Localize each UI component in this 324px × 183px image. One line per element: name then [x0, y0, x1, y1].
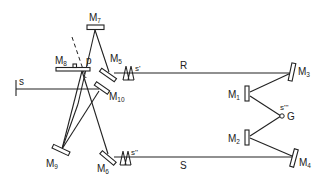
mirror-m10 — [94, 82, 109, 94]
grating-g — [280, 114, 284, 118]
beam-m7-m5 — [95, 30, 109, 72]
label-m2: M2 — [228, 133, 240, 145]
slit-s-double-prime — [120, 151, 131, 165]
mirror-m3 — [288, 63, 296, 81]
label-m5: M5 — [110, 53, 122, 65]
label-m4: M4 — [299, 157, 311, 169]
label-s-prime: s' — [135, 64, 141, 73]
beam-m2-m4 — [250, 138, 292, 156]
m8-small-block — [73, 64, 77, 68]
beam-to-m9-a — [62, 71, 82, 149]
mirror-m2 — [245, 130, 249, 145]
label-m1: M1 — [228, 89, 240, 101]
label-m7: M7 — [89, 12, 101, 24]
label-r: R — [180, 60, 187, 71]
beam-m10-m9 — [62, 91, 99, 149]
label-s-beam: S — [180, 160, 187, 171]
beam-m3-m1 — [250, 73, 291, 92]
label-m10: M10 — [109, 91, 125, 103]
beam-left-m9 — [62, 104, 78, 149]
dashed-axis-line — [72, 37, 86, 78]
beam-m1-g — [250, 96, 281, 116]
mirror-m9 — [52, 144, 70, 155]
label-s-source: s — [19, 76, 24, 87]
mirror-m4 — [290, 149, 299, 167]
label-m8: M8 — [55, 55, 67, 67]
label-m9: M9 — [46, 158, 58, 170]
beam-g-m2 — [250, 116, 281, 136]
mirror-m7 — [87, 25, 104, 30]
label-p: p — [86, 55, 92, 66]
mirror-m1 — [245, 86, 249, 101]
label-g: G — [287, 111, 295, 122]
optical-diagram: s M7 M8 p M5 s' R M10 M9 M6 s'' S M3 — [0, 0, 324, 183]
label-m3: M3 — [298, 66, 310, 78]
label-s-double-prime: s'' — [131, 148, 139, 157]
label-m6: M6 — [97, 163, 109, 175]
